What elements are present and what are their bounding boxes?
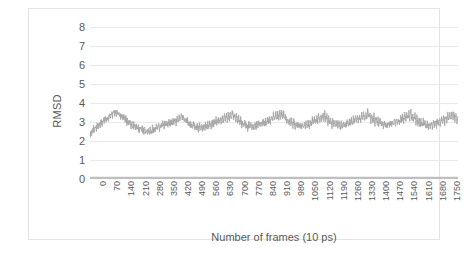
y-tick-label: 8 <box>79 22 85 33</box>
x-tick-label: 350 <box>170 181 179 196</box>
x-tick-label: 420 <box>184 181 193 196</box>
y-axis-tick-labels: 012345678 <box>69 27 85 179</box>
x-tick-label: 1400 <box>382 181 391 201</box>
x-tick-label: 210 <box>142 181 151 196</box>
x-tick-label: 700 <box>241 181 250 196</box>
y-tick-label: 6 <box>79 60 85 71</box>
x-tick-label: 560 <box>212 181 221 196</box>
x-tick-label: 630 <box>226 181 235 196</box>
x-tick-label: 1260 <box>354 181 363 201</box>
y-tick-label: 3 <box>79 117 85 128</box>
x-tick-label: 980 <box>297 181 306 196</box>
x-tick-label: 70 <box>113 181 122 191</box>
series-lines <box>90 27 458 179</box>
x-tick-label: 910 <box>283 181 292 196</box>
x-tick-label: 1680 <box>439 181 448 201</box>
x-axis-title-label: Number of frames (10 ps) <box>211 231 336 243</box>
y-tick-label: 0 <box>79 174 85 185</box>
x-tick-label: 1120 <box>326 181 335 200</box>
x-axis-tick-labels: 0701402102803504204905606307007708409109… <box>90 181 458 225</box>
y-tick-label: 7 <box>79 41 85 52</box>
x-tick-label: 1190 <box>340 181 349 200</box>
x-tick-label: 1750 <box>453 181 462 201</box>
x-tick-label: 1330 <box>368 181 377 201</box>
x-tick-label: 1470 <box>396 181 405 201</box>
y-axis-title-label: RMSD <box>51 94 63 128</box>
chart-frame: RMSD 012345678 0701402102803504204905606… <box>28 8 440 240</box>
y-tick-label: 1 <box>79 155 85 166</box>
x-tick-label: 840 <box>269 181 278 196</box>
x-axis-title: Number of frames (10 ps) <box>90 231 458 243</box>
x-tick-label: 1050 <box>311 181 320 201</box>
x-tick-label: 770 <box>255 181 264 196</box>
x-tick-label: 1610 <box>425 181 434 201</box>
x-tick-label: 280 <box>156 181 165 196</box>
x-tick-label: 1540 <box>410 181 419 201</box>
y-tick-label: 5 <box>79 79 85 90</box>
x-tick-label: 490 <box>198 181 207 196</box>
y-tick-label: 4 <box>79 98 85 109</box>
x-tick-label: 140 <box>127 181 136 196</box>
y-tick-label: 2 <box>79 136 85 147</box>
plot-area <box>90 27 458 179</box>
x-tick-label: 0 <box>99 181 108 186</box>
y-axis-title: RMSD <box>50 71 64 151</box>
rmsd-series <box>90 108 458 137</box>
